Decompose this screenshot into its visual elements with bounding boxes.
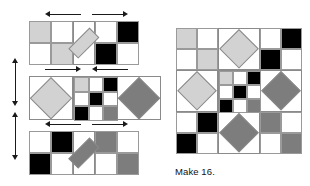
checker-cell: [219, 71, 233, 85]
checker-cell: [233, 71, 247, 85]
diamond-shape: [118, 77, 160, 119]
diamond-shape: [69, 28, 100, 59]
block-square: [176, 112, 197, 133]
press-arrow-1-b: [92, 11, 128, 18]
arrow-shaft: [15, 116, 16, 156]
arrow-head-right-icon: [123, 11, 128, 17]
block-diamond: [176, 70, 218, 112]
quilt-assembly-diagram: Make 16.: [0, 0, 310, 186]
join-arrow-top: [12, 58, 19, 106]
strip-3-square: [51, 131, 73, 153]
block-diamond: [218, 28, 260, 70]
checker-cell: [219, 85, 233, 99]
checker-cell: [247, 71, 261, 85]
block-square: [281, 49, 302, 70]
block-square: [281, 112, 302, 133]
strip-3-square: [29, 153, 51, 175]
checker-cell: [247, 99, 261, 113]
diamond-shape: [30, 77, 72, 119]
strip-1-square: [117, 43, 139, 65]
arrow-shaft: [92, 124, 124, 125]
arrow-head-right-icon: [76, 66, 81, 72]
block-square: [260, 49, 281, 70]
strip-1-square: [51, 21, 73, 43]
checker-cell: [233, 85, 247, 99]
strip-2-diamond: [29, 76, 73, 120]
block-diamond: [260, 70, 302, 112]
block-square: [260, 112, 281, 133]
block-square: [176, 49, 197, 70]
strip-1-square: [29, 21, 51, 43]
arrow-head-down-icon: [12, 101, 18, 106]
block-square: [281, 133, 302, 154]
checker-cell: [233, 99, 247, 113]
join-arrow-bottom: [12, 112, 19, 160]
arrow-shaft: [92, 14, 124, 15]
diamond-shape: [69, 138, 100, 169]
diamond-shape: [177, 71, 217, 111]
strip-1-square: [95, 43, 117, 65]
arrow-shaft: [15, 62, 16, 102]
diamond-shape: [219, 113, 259, 153]
arrow-head-up-icon: [12, 58, 18, 63]
arrow-head-left-icon: [45, 11, 50, 17]
checker-cell: [103, 106, 118, 121]
block-diamond: [218, 112, 260, 154]
arrow-head-left-icon: [45, 121, 50, 127]
block-square: [197, 49, 218, 70]
strip-3-square: [95, 131, 117, 153]
block-checkerboard: [218, 70, 260, 112]
checker-cell: [74, 77, 89, 92]
checker-cell: [74, 106, 89, 121]
strip-1-square: [117, 21, 139, 43]
arrow-head-up-icon: [12, 112, 18, 117]
checker-cell: [247, 85, 261, 99]
strip-1-diamond: [73, 21, 95, 65]
strip-3-square: [117, 153, 139, 175]
press-arrow-1-a: [45, 11, 81, 18]
checker-cell: [89, 77, 104, 92]
strip-2-diamond: [117, 76, 161, 120]
arrow-head-left-icon: [92, 66, 97, 72]
block-square: [197, 133, 218, 154]
arrow-shaft: [49, 124, 81, 125]
block-square: [260, 28, 281, 49]
checker-cell: [74, 92, 89, 107]
block-square: [260, 133, 281, 154]
diamond-shape: [219, 29, 259, 69]
block-square: [176, 133, 197, 154]
make-count-caption: Make 16.: [175, 166, 215, 177]
strip-3-square: [95, 153, 117, 175]
diamond-shape: [261, 71, 301, 111]
checker-cell: [89, 106, 104, 121]
strip-1-square: [29, 43, 51, 65]
checker-cell: [219, 99, 233, 113]
strip-1-square: [95, 21, 117, 43]
press-arrow-2-a: [45, 66, 81, 73]
block-square: [176, 28, 197, 49]
arrow-head-down-icon: [12, 155, 18, 160]
checker-cell: [103, 92, 118, 107]
arrow-shaft: [96, 69, 128, 70]
strip-2-checkerboard: [73, 76, 117, 120]
checker-cell: [89, 92, 104, 107]
press-arrow-3-b: [92, 121, 128, 128]
press-arrow-3-a: [45, 121, 81, 128]
checker-cell: [103, 77, 118, 92]
press-arrow-2-b: [92, 66, 128, 73]
block-square: [197, 112, 218, 133]
strip-3-square: [117, 131, 139, 153]
block-square: [197, 28, 218, 49]
block-square: [281, 28, 302, 49]
arrow-shaft: [49, 14, 81, 15]
strip-3-square: [29, 131, 51, 153]
strip-3-diamond: [73, 131, 95, 175]
arrow-shaft: [45, 69, 77, 70]
arrow-head-right-icon: [123, 121, 128, 127]
